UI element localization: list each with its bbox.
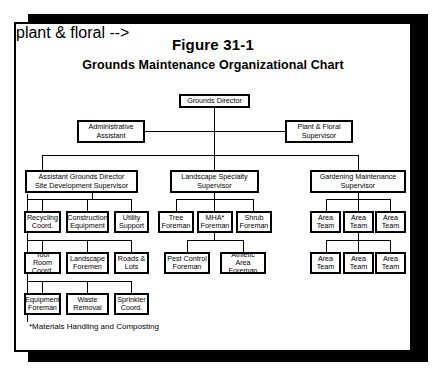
node-area-team-6[interactable]: Area Team [375,252,406,274]
connector-middle-row2-bus [187,240,243,241]
node-waste-removal[interactable]: Waste Removal [66,293,109,315]
connector-left-row2-drop-b [87,240,88,252]
connector-bus-to-assistant-director [42,155,43,170]
connector-middle-row2-stem [214,233,215,240]
node-athletic-area-foreman-line1: Athletic Area [223,251,263,267]
node-area-team-5-line2: Team [350,263,368,271]
node-tool-room-coord-line1: Tool Room [27,251,58,267]
node-tree-foreman-line2: Foreman [162,222,191,230]
node-area-team-2[interactable]: Area Team [343,211,374,233]
connector-right-row1-drop-a [326,199,327,211]
connector-middle-row1-drop-a [176,199,177,211]
node-area-team-3[interactable]: Area Team [375,211,406,233]
node-area-team-5[interactable]: Area Team [343,252,374,274]
node-grounds-director-line1: Grounds Director [187,97,242,105]
connector-bus-to-gardening [358,155,359,170]
node-area-team-6-line2: Team [382,263,400,271]
node-administrative-assistant-line2: Assistant [88,132,133,140]
node-area-team-1-line2: Team [317,222,335,230]
node-area-team-4[interactable]: Area Team [310,252,341,274]
node-administrative-assistant[interactable]: Administrative Assistant [77,120,145,143]
node-recycling-coord-line2: Coord. [27,222,58,230]
node-grounds-director[interactable]: Grounds Director [179,94,250,108]
chart-panel: Figure 31-1 Grounds Maintenance Organiza… [14,22,412,352]
node-roads-lots[interactable]: Roads & Lots [114,252,149,274]
node-area-team-2-line2: Team [350,222,368,230]
connector-director-stem [214,108,215,170]
node-landscape-foremen-line2: Foremen [70,263,105,271]
node-area-team-3-line2: Team [382,222,400,230]
connector-middle-row1-drop-c [253,199,254,211]
node-gardening-maintenance-supervisor-line2: Supervisor [320,182,397,190]
node-shrub-foreman-line2: Foreman [240,222,269,230]
node-tree-foreman[interactable]: Tree Foreman [158,211,194,233]
connector-middle-row1-drop-b [214,199,215,211]
connector-right-row1-drop-c [390,199,391,211]
node-plant-floral-supervisor-line2: Supervisor [297,132,340,140]
node-shrub-foreman[interactable]: Shrub Foreman [236,211,272,233]
node-pest-control-foreman-line2: Foreman [167,263,207,271]
figure-page: Figure 31-1 Grounds Maintenance Organiza… [0,0,446,380]
node-equipment-foreman[interactable]: Equipment Foreman [24,293,61,315]
node-sprinkler-coord[interactable]: Sprinkler Coord. [114,293,149,315]
node-utility-support[interactable]: Utility Support [114,211,149,233]
connector-right-row2-drop-b [358,240,359,252]
connector-left-row2-drop-c [131,240,132,252]
node-waste-removal-line2: Removal [73,304,101,312]
connector-left-row3-drop-a [42,281,43,293]
node-athletic-area-foreman[interactable]: Athletic Area Foreman [220,252,266,274]
node-assistant-grounds-director[interactable]: Assistant Grounds Director Site Developm… [25,170,138,193]
node-athletic-area-foreman-line2: Foreman [223,267,263,275]
node-mha-foreman-line2: Foreman [201,222,230,230]
node-recycling-coord[interactable]: Recycling Coord. [24,211,61,233]
org-chart-canvas: plant & floral --> [16,24,414,354]
connector-left-row3-drop-c [131,281,132,293]
connector-right-row2-drop-a [326,240,327,252]
node-pest-control-foreman[interactable]: Pest Control Foreman [164,252,210,274]
node-area-team-1[interactable]: Area Team [310,211,341,233]
node-tool-room-coord-line2: Coord. [27,267,58,275]
node-equipment-foreman-line2: Foreman [25,304,59,312]
connector-right-row2-drop-c [390,240,391,252]
node-area-team-4-line2: Team [317,263,335,271]
node-landscape-specialty-supervisor-line2: Supervisor [181,182,247,190]
connector-middle-row2-drop-a [187,240,188,252]
node-construction-equipment[interactable]: Construction Equipment [66,211,109,233]
node-gardening-maintenance-supervisor[interactable]: Gardening Maintenance Supervisor [310,170,406,193]
connector-right-row2-stem [358,233,359,240]
node-sprinkler-coord-line2: Coord. [117,304,145,312]
node-plant-floral-supervisor[interactable]: Plant & Floral Supervisor [285,120,353,143]
node-mha-foreman[interactable]: MHA* Foreman [197,211,233,233]
node-utility-support-line2: Support [119,222,144,230]
connector-right-row1-drop-b [358,199,359,211]
connector-left-row1-drop-a [42,199,43,211]
connector-left-row1-drop-b [87,199,88,211]
node-construction-equipment-line2: Equipment [67,222,107,230]
node-roads-lots-line2: Lots [118,263,146,271]
connector-left-row3-drop-b [87,281,88,293]
node-landscape-specialty-supervisor[interactable]: Landscape Specialty Supervisor [170,170,259,193]
connector-left-row1-drop-c [131,199,132,211]
connector-supervisor-bus [42,155,358,156]
node-assistant-grounds-director-line2: Site Development Supervisor [35,182,128,190]
footnote: *Materials Handling and Composting [29,322,159,331]
node-landscape-foremen[interactable]: Landscape Foremen [66,252,109,274]
node-tool-room-coord[interactable]: Tool Room Coord. [24,252,61,274]
